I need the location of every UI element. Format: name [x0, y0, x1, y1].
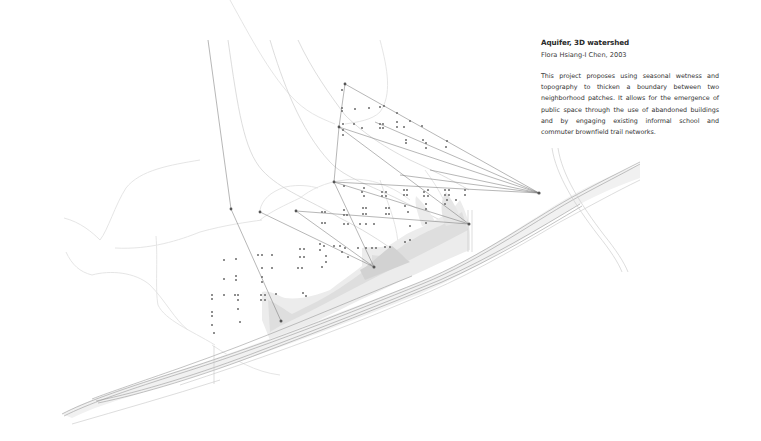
project-caption: Aquifer, 3D watershed Flora Hsiang-I Che… [541, 38, 719, 138]
project-author: Flora Hsiang-I Chen, 2003 [541, 50, 719, 60]
project-description: This project proposes using seasonal wet… [541, 71, 719, 138]
project-title: Aquifer, 3D watershed [541, 38, 719, 48]
